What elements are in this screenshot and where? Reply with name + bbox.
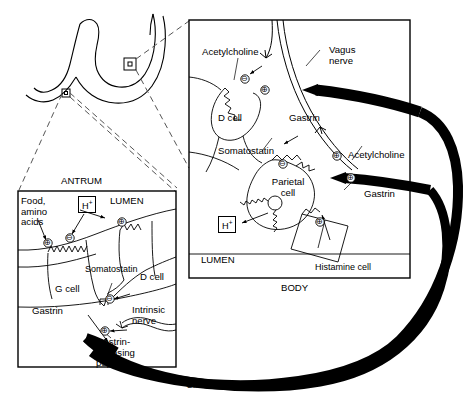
body-minus-symbol-somatostatin: ⊖ xyxy=(279,159,286,170)
body-callout-marker xyxy=(124,58,136,70)
body-gastrin-right-label: Gastrin xyxy=(364,189,395,200)
antrum-g-cell-label: G cell xyxy=(55,284,80,295)
antrum-minus-symbol-acid: ⊖ xyxy=(66,233,73,244)
body-parietal-cell-label: Parietal cell xyxy=(265,177,311,198)
body-histamine-cell-label: Histamine cell xyxy=(315,262,371,273)
body-lumen-label: LUMEN xyxy=(201,255,235,266)
antrum-gastrin-label: Gastrin xyxy=(32,306,63,317)
antrum-arrows xyxy=(38,210,130,342)
antrum-acid-text: H xyxy=(82,201,89,211)
body-acid-sup: + xyxy=(229,219,233,226)
body-d-cell-label: D cell xyxy=(218,113,242,124)
diagram-svg xyxy=(0,0,466,419)
body-caption: BODY xyxy=(281,283,308,294)
body-acetylcholine-right-label: Acetylcholine xyxy=(348,150,405,161)
body-gastrin-top-label: Gastrin xyxy=(289,113,320,124)
stomach-outline xyxy=(26,14,165,103)
antrum-minus-symbol-somatostatin: ⊖ xyxy=(106,294,113,305)
circulation-label: Circulation xyxy=(186,380,231,391)
antrum-d-cell-label: D cell xyxy=(140,272,164,283)
callout-dashed-lines xyxy=(19,21,189,192)
antrum-plus-symbol-food: ⊕ xyxy=(44,238,51,249)
body-acid-box: H+ xyxy=(218,216,236,233)
body-acid-text: H xyxy=(222,221,229,231)
antrum-acid-sup: + xyxy=(89,199,93,206)
antrum-plus-symbol-dcell: ⊕ xyxy=(118,217,125,228)
antrum-food-label: Food, amino acids xyxy=(21,196,47,228)
body-somatostatin-label: Somatostatin xyxy=(218,146,274,157)
body-plus-symbol-ach-parietal: ⊕ xyxy=(333,151,340,162)
body-gastrin-black-arrow-top xyxy=(302,84,420,112)
body-plus-symbol-gastrin-parietal: ⊕ xyxy=(347,173,354,184)
antrum-caption: ANTRUM xyxy=(61,176,102,187)
body-vagus-nerve-label: Vagus nerve xyxy=(329,45,356,66)
antrum-plus-symbol-grp: ⊕ xyxy=(101,326,108,337)
body-plus-symbol-gastrin-dcell: ⊕ xyxy=(261,85,268,96)
antrum-intrinsic-nerve-label: Intrinsic nerve xyxy=(132,305,165,326)
body-plus-symbol-histamine: ⊕ xyxy=(316,217,323,228)
antrum-grp-label: Gastrin- releasing peptide xyxy=(96,337,135,369)
figure-canvas: ANTRUM Food, amino acids LUMEN H+ Somato… xyxy=(0,0,466,419)
body-minus-symbol-ach-dcell: ⊖ xyxy=(241,74,248,85)
antrum-lumen-label: LUMEN xyxy=(110,196,144,207)
body-acetylcholine-top-label: Acetylcholine xyxy=(202,47,259,58)
antrum-somatostatin-label: Somatostatin xyxy=(85,264,138,275)
body-canaliculus xyxy=(240,196,282,232)
antrum-acid-box: H+ xyxy=(78,196,96,213)
antrum-symbol-circles xyxy=(44,218,126,335)
